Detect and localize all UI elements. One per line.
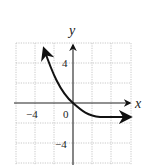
tick-y-neg4: −4 [55,138,67,150]
tick-y-4: 4 [62,57,68,69]
chart: y x 4 −4 0 −4 [0,0,144,165]
x-axis-label: x [134,96,142,111]
origin-label: 0 [63,108,69,120]
tick-x-neg4: −4 [26,108,38,120]
y-axis-label: y [67,23,76,38]
